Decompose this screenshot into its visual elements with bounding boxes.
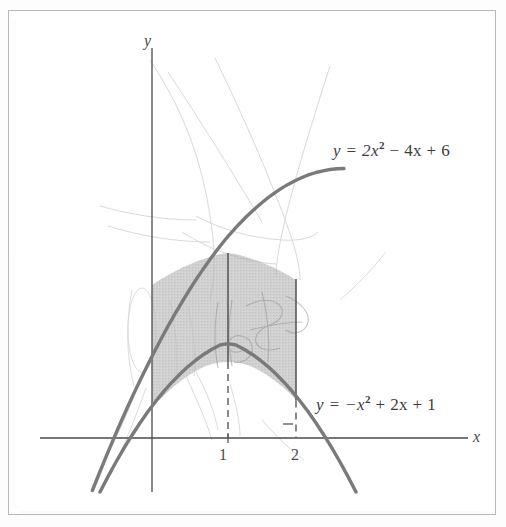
y-axis-label: y (144, 32, 151, 50)
upper-eq-prefix: y = 2x (333, 141, 379, 160)
upper-curve-equation-label: y = 2x2 − 4x + 6 (333, 139, 450, 161)
graph-plot-area (0, 0, 506, 527)
x-tick-label-2: 2 (291, 446, 299, 464)
lower-eq-prefix: y = −x (316, 395, 365, 414)
lower-eq-suffix: + 2x + 1 (371, 395, 436, 414)
lower-curve-equation-label: y = −x2 + 2x + 1 (316, 393, 436, 415)
figure-container: y = 2x2 − 4x + 6 y = −x2 + 2x + 1 x y 1 … (0, 0, 506, 527)
upper-eq-suffix: − 4x + 6 (385, 141, 450, 160)
x-axis-label: x (473, 428, 480, 446)
x-tick-label-1: 1 (219, 446, 227, 464)
